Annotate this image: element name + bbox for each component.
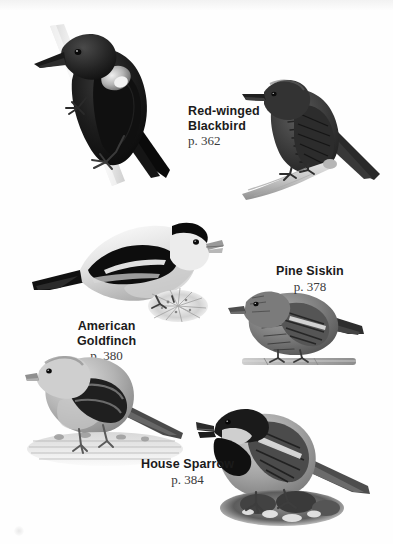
species-name-line1: American bbox=[77, 319, 136, 334]
page-reference: p. 378 bbox=[276, 279, 344, 294]
page-top-shading bbox=[0, 0, 393, 10]
field-guide-page: Red-winged Blackbird p. 362 bbox=[0, 0, 393, 544]
photo-blackbird-male bbox=[20, 18, 185, 203]
label-house-sparrow: House Sparrow p. 384 bbox=[141, 457, 234, 487]
photo-blackbird-female bbox=[240, 70, 390, 200]
label-red-winged-blackbird: Red-winged Blackbird p. 362 bbox=[188, 104, 260, 148]
species-name-line2: Blackbird bbox=[188, 119, 260, 134]
page-reference: p. 384 bbox=[141, 472, 234, 487]
species-name-line1: House Sparrow bbox=[141, 457, 234, 472]
label-pine-siskin: Pine Siskin p. 378 bbox=[276, 264, 344, 294]
page-corner-mark bbox=[14, 526, 24, 536]
photo-pine-siskin bbox=[228, 282, 368, 374]
photo-goldfinch-breeding bbox=[30, 208, 225, 326]
ground-rocks bbox=[220, 490, 344, 526]
species-name-line1: Red-winged bbox=[188, 104, 260, 119]
photo-goldfinch-winter bbox=[25, 345, 195, 470]
page-reference: p. 362 bbox=[188, 133, 260, 148]
species-name-line1: Pine Siskin bbox=[276, 264, 344, 279]
